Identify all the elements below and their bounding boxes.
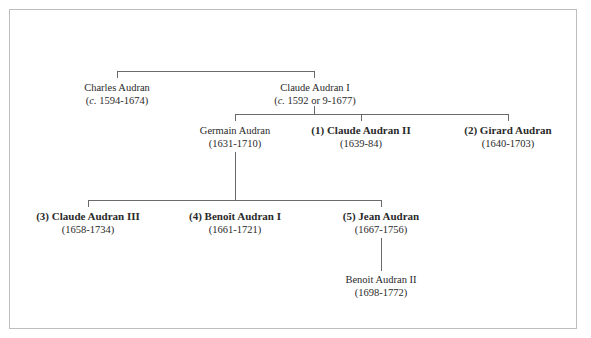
person-dates: (1667-1756) — [343, 223, 419, 236]
connector-claude3-stub — [88, 200, 89, 207]
connector-jean-stub — [381, 200, 382, 207]
connector-gen3-horizontal — [88, 200, 382, 201]
person-name: (4) Benoît Audran I — [189, 210, 281, 223]
connector-girard-stub — [508, 114, 509, 121]
connector-jean-down — [381, 238, 382, 271]
person-dates: (1658-1734) — [36, 223, 140, 236]
person-name: (3) Claude Audran III — [36, 210, 140, 223]
person-dates: (c. 1594-1674) — [84, 94, 150, 107]
connector-claude1-down — [314, 106, 315, 114]
person-girard-audran: (2) Girard Audran (1640-1703) — [464, 124, 551, 150]
person-dates: (c. 1592 or 9-1677) — [274, 94, 356, 107]
person-jean-audran: (5) Jean Audran (1667-1756) — [343, 210, 419, 236]
person-dates: (1661-1721) — [189, 223, 281, 236]
person-dates: (1640-1703) — [464, 137, 551, 150]
connector-gen1-horizontal — [117, 71, 315, 72]
person-benoit-audran-ii: Benoit Audran II (1698-1772) — [345, 273, 416, 299]
connector-claude1-stub — [314, 71, 315, 78]
person-claude-audran-i: Claude Audran I (c. 1592 or 9-1677) — [274, 81, 356, 107]
person-benoit-audran-i: (4) Benoît Audran I (1661-1721) — [189, 210, 281, 236]
connector-charles-stub — [117, 71, 118, 78]
person-name: (2) Girard Audran — [464, 124, 551, 137]
person-charles-audran: Charles Audran (c. 1594-1674) — [84, 81, 150, 107]
person-dates: (1639-84) — [311, 137, 410, 150]
person-name: Germain Audran — [200, 124, 270, 137]
connector-germain-stub — [235, 114, 236, 121]
connector-gen2-horizontal — [235, 114, 509, 115]
person-name: Claude Audran I — [274, 81, 356, 94]
person-claude-audran-ii: (1) Claude Audran II (1639-84) — [311, 124, 410, 150]
person-name: Charles Audran — [84, 81, 150, 94]
person-dates: (1631-1710) — [200, 137, 270, 150]
diagram-frame — [9, 9, 577, 329]
person-dates: (1698-1772) — [345, 286, 416, 299]
person-claude-audran-iii: (3) Claude Audran III (1658-1734) — [36, 210, 140, 236]
person-germain-audran: Germain Audran (1631-1710) — [200, 124, 270, 150]
person-name: (1) Claude Audran II — [311, 124, 410, 137]
person-name: (5) Jean Audran — [343, 210, 419, 223]
connector-claude2-stub — [361, 114, 362, 121]
connector-germain-down — [235, 152, 236, 200]
person-name: Benoit Audran II — [345, 273, 416, 286]
